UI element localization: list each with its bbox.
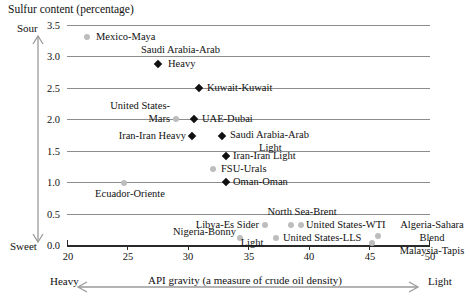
datapoint-fsu-urals[interactable] [210,166,216,172]
chart-title: Sulfur content (percentage) [8,3,134,15]
datalabel-united-states-mars-line2: Mars [148,113,170,125]
datalabel-iran-iran-light: Iran-Iran Light [233,150,296,162]
sulfur-api-scatter-chart: Sulfur content (percentage) Sour Sweet H… [0,0,470,306]
ytick-0.0: 0.0 [36,240,60,251]
datalabel-nigeria-bonny-light-line2: Light [241,237,264,249]
datapoint-iran-iran-light[interactable] [222,152,230,160]
datapoint-north-sea-brent[interactable] [288,222,294,228]
datalabel-oman-oman: Oman-Oman [233,176,288,188]
datapoint-algeria-sahara-blend[interactable] [375,233,381,239]
datalabel-algeria-sahara-blend-line2: Blend [419,232,444,244]
xtick-35: 35 [244,251,255,262]
xtick-30: 30 [183,251,194,262]
datalabel-uae-dubai: UAE-Dubai [202,113,253,125]
datalabel-kuwait-kuwait: Kuwait-Kuwait [207,82,272,94]
ytick-1.0: 1.0 [36,177,60,188]
xtick-mark-25 [127,245,128,250]
datalabel-iran-iran-heavy: Iran-Iran Heavy [119,130,186,142]
gridline-0.5 [67,214,430,215]
datapoint-mexico-maya[interactable] [84,34,90,40]
datapoint-libya-es-sider[interactable] [262,222,268,228]
datapoint-united-states-lls[interactable] [273,235,279,241]
datapoint-united-states-wti[interactable] [298,222,304,228]
x-axis-left-cap [67,240,68,245]
xtick-20: 20 [63,251,74,262]
datapoint-oman-oman[interactable] [222,178,230,186]
datapoint-saudi-arabia-arab-light[interactable] [218,132,226,140]
datapoint-kuwait-kuwait[interactable] [195,84,203,92]
datalabel-nigeria-bonny-light-line1: Nigeria-Bonny [173,226,236,238]
datalabel-algeria-sahara-blend-line1: Algeria-Sahara [400,219,464,231]
datalabel-malaysia-tapis: Malaysia-Tapis [400,245,465,257]
datalabel-united-states-mars-line1: United States- [110,100,170,112]
gridline-3.0 [67,56,430,57]
datalabel-fsu-urals: FSU-Urals [221,163,267,175]
datapoint-uae-dubai[interactable] [190,115,198,123]
datalabel-saudi-arabia-arab-heavy-line2: Heavy [168,58,195,70]
datapoint-united-states-mars[interactable] [173,116,179,122]
datalabel-mexico-maya: Mexico-Maya [96,31,155,43]
ytick-2.5: 2.5 [36,83,60,94]
ytick-3.0: 3.0 [36,51,60,62]
xtick-45: 45 [365,251,376,262]
ytick-2.0: 2.0 [36,114,60,125]
datalabel-ecuador-oriente: Ecuador-Oriente [95,188,165,200]
ytick-3.5: 3.5 [36,20,60,31]
datalabel-saudi-arabia-arab-light-line1: Saudi Arabia-Arab [230,129,309,141]
gridline-3.5 [67,25,430,26]
ytick-0.5: 0.5 [36,209,60,220]
datapoint-iran-iran-heavy[interactable] [188,132,196,140]
ytick-1.5: 1.5 [36,146,60,157]
datalabel-united-states-lls: United States-LLS [283,232,361,244]
xtick-mark-30 [188,245,189,250]
x-axis-title: API gravity (a measure of crude oil dens… [148,274,342,286]
datalabel-north-sea-brent: North Sea-Brent [267,206,336,218]
datapoint-ecuador-oriente[interactable] [121,180,127,186]
xtick-mark-40 [309,245,310,250]
datalabel-united-states-wti: United States-WTI [306,219,386,231]
x-axis-right-annotation: Light [428,275,452,287]
datapoint-malaysia-tapis[interactable] [369,240,375,246]
datalabel-saudi-arabia-arab-heavy-line1: Saudi Arabia-Arab [141,44,220,56]
xtick-40: 40 [304,251,315,262]
datapoint-saudi-arabia-arab-heavy[interactable] [154,60,162,68]
xtick-25: 25 [123,251,134,262]
